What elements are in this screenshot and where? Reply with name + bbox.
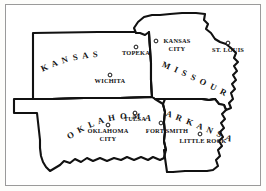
city-label-topeka: TOPEKA bbox=[122, 49, 150, 56]
state-outlines bbox=[14, 13, 238, 172]
map-drawing: K A N S A S M I S S O U R I O K L A H O … bbox=[0, 0, 266, 191]
city-marker-kansas-city[interactable] bbox=[154, 39, 158, 43]
city-marker-st-louis[interactable] bbox=[226, 41, 230, 45]
city-label-oklahoma-city-line2: CITY bbox=[100, 135, 117, 142]
border-missouri-arkansas bbox=[155, 99, 215, 100]
city-label-st-louis: ST. LOUIS bbox=[212, 46, 244, 53]
city-label-kansas-city-line2: CITY bbox=[169, 45, 186, 52]
city-label-fort-smith: FORT SMITH bbox=[146, 127, 188, 134]
city-label-oklahoma-city-line1: OKLAHOMA bbox=[87, 127, 128, 134]
city-label-tulsa: TULSA bbox=[124, 115, 146, 122]
city-label-little-rock: LITTLE ROCK bbox=[180, 137, 227, 144]
city-marker-fort-smith[interactable] bbox=[159, 121, 163, 125]
state-outline-oklahoma bbox=[14, 97, 166, 171]
city-label-wichita: WICHITA bbox=[95, 77, 126, 84]
city-label-kansas-city-line1: KANSAS bbox=[163, 37, 190, 44]
city-marker-little-rock[interactable] bbox=[198, 132, 202, 136]
map-container: K A N S A S M I S S O U R I O K L A H O … bbox=[0, 0, 266, 191]
